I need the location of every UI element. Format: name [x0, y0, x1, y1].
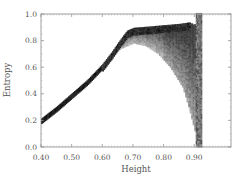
x-tick-label: 0.90: [186, 153, 203, 162]
x-tick-label: 0.80: [155, 153, 172, 162]
y-tick-label: 1.0: [25, 10, 37, 19]
x-tick-label: 0.40: [33, 153, 50, 162]
y-tick-label: 0.6: [25, 63, 37, 72]
y-tick-label: 0.0: [25, 143, 37, 152]
x-tick-label: 0.60: [94, 153, 111, 162]
x-tick-label: 0.50: [63, 153, 80, 162]
y-tick-label: 0.8: [25, 36, 37, 45]
x-tick-label: 0.70: [125, 153, 142, 162]
entropy-height-density-chart: 0.400.500.600.700.800.90 0.00.20.40.60.8…: [0, 0, 244, 183]
x-axis-label: Height: [121, 164, 151, 174]
y-tick-label: 0.2: [25, 116, 37, 125]
vertical-band: [196, 13, 203, 147]
y-tick-label: 0.4: [25, 89, 37, 98]
y-axis-label: Entropy: [2, 63, 12, 98]
